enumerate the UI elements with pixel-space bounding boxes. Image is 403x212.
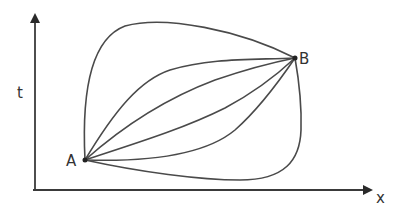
- t-axis-label: t: [17, 84, 23, 102]
- path-upper: [85, 58, 295, 160]
- paths-diagram: t x A B: [0, 0, 403, 212]
- x-axis-label: x: [376, 189, 385, 207]
- path-lower-mid: [85, 58, 295, 160]
- point-b-label: B: [299, 50, 309, 68]
- point-a-marker: [83, 158, 88, 163]
- path-upper-mid: [85, 58, 295, 160]
- path-lower: [85, 58, 295, 160]
- point-a-label: A: [66, 152, 77, 170]
- path-outer-bottom: [85, 58, 301, 180]
- point-b-marker: [293, 56, 298, 61]
